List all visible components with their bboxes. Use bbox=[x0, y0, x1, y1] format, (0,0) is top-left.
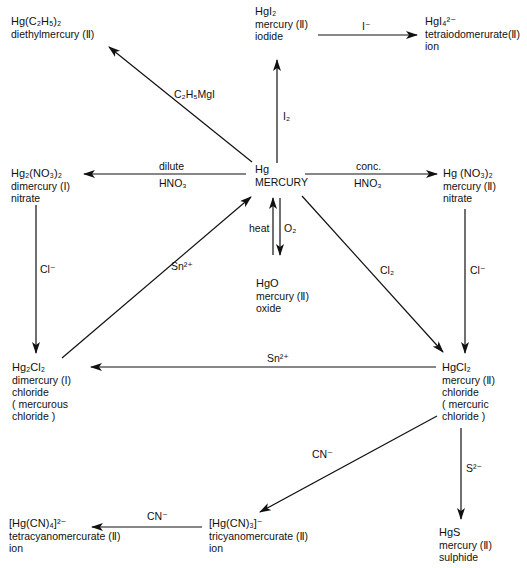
edge-label-cl2: Cl₂ bbox=[380, 264, 394, 276]
edge-label-chloride-left: Cl⁻ bbox=[40, 263, 55, 275]
node-mercury: Hg MERCURY bbox=[255, 163, 308, 188]
node-name-line: chloride ) bbox=[12, 410, 71, 422]
mercury-reaction-diagram: Hg MERCURY HgI₂ mercury (Ⅱ) iodide HgI₄²… bbox=[0, 0, 527, 568]
node-formula: HgI₂ bbox=[255, 5, 308, 18]
edge-label-grignard: C₂H₅MgI bbox=[174, 88, 215, 100]
arrow-hg2cl2-to-hg bbox=[62, 197, 251, 358]
edge-label-dilute: dilute bbox=[159, 160, 184, 172]
node-formula: Hg₂(NO₃)₂ bbox=[11, 167, 70, 180]
arrow-hg-to-diethylmercury bbox=[109, 47, 252, 162]
node-tetraiodomercurate-ion: HgI₄²⁻ tetraiodomerurate(Ⅱ) ion bbox=[425, 15, 520, 52]
node-name-line: chloride bbox=[12, 386, 71, 398]
node-tetracyanomercurate-ion: [Hg(CN)₄]²⁻ tetracyanomercurate (Ⅱ) ion bbox=[9, 517, 120, 554]
node-formula: Hg bbox=[255, 163, 308, 176]
node-name-line: tetraiodomerurate(Ⅱ) bbox=[425, 28, 520, 40]
node-mercury-ii-chloride: HgCl₂ mercury (Ⅱ) chloride ( mercuric ch… bbox=[442, 361, 495, 422]
node-name-line: ion bbox=[209, 542, 308, 554]
edge-label-heat: heat bbox=[249, 222, 269, 234]
edge-label-o2: O₂ bbox=[284, 222, 296, 234]
node-formula: [Hg(CN)₄]²⁻ bbox=[9, 517, 120, 530]
edge-label-chloride-right: Cl⁻ bbox=[470, 264, 485, 276]
node-diethylmercury: Hg(C₂H₅)₂ diethylmercury (Ⅱ) bbox=[11, 15, 94, 40]
node-dimercury-i-nitrate: Hg₂(NO₃)₂ dimercury (Ⅰ) nitrate bbox=[11, 167, 70, 204]
edge-label-hno3-dilute: HNO₃ bbox=[159, 177, 187, 189]
node-formula: [Hg(CN)₃]⁻ bbox=[209, 517, 308, 530]
node-name-line: chloride bbox=[442, 386, 495, 398]
edge-label-iodide-ion: I⁻ bbox=[362, 20, 370, 32]
node-formula: Hg(C₂H₅)₂ bbox=[11, 15, 94, 28]
edge-label-cyanide-diagonal: CN⁻ bbox=[312, 448, 333, 460]
node-name-line: mercury (Ⅱ) bbox=[439, 539, 492, 551]
node-dimercury-i-chloride: Hg₂Cl₂ dimercury (Ⅰ) chloride ( mercurou… bbox=[12, 361, 71, 422]
node-tricyanomercurate-ion: [Hg(CN)₃]⁻ tricyanomercurate (Ⅱ) ion bbox=[209, 517, 308, 554]
node-mercury-ii-sulphide: HgS mercury (Ⅱ) sulphide bbox=[439, 526, 492, 563]
node-formula: HgO bbox=[256, 277, 309, 290]
node-formula: Hg₂Cl₂ bbox=[12, 361, 71, 374]
node-name-line: ion bbox=[425, 40, 520, 52]
node-name-line: nitrate bbox=[443, 192, 496, 204]
node-name-line: mercury (Ⅱ) bbox=[443, 180, 496, 192]
node-formula: HgCl₂ bbox=[442, 361, 495, 374]
node-name-line: dimercury (Ⅰ) bbox=[12, 374, 71, 386]
node-name: MERCURY bbox=[255, 176, 308, 188]
edge-label-i2: I₂ bbox=[283, 110, 290, 122]
arrow-hg-to-hgcl2 bbox=[302, 196, 443, 352]
node-formula: HgS bbox=[439, 526, 492, 539]
node-name-line: iodide bbox=[255, 30, 308, 42]
node-name-line: nitrate bbox=[11, 192, 70, 204]
node-name-line: sulphide bbox=[439, 551, 492, 563]
node-name-line: diethylmercury (Ⅱ) bbox=[11, 28, 94, 40]
node-name-line: mercury (Ⅱ) bbox=[256, 290, 309, 302]
node-name-line: tetracyanomercurate (Ⅱ) bbox=[9, 530, 120, 542]
edge-label-tin-diagonal: Sn²⁺ bbox=[171, 260, 193, 272]
node-mercury-ii-nitrate: Hg (NO₃)₂ mercury (Ⅱ) nitrate bbox=[443, 167, 496, 204]
node-name-line: mercury (Ⅱ) bbox=[442, 374, 495, 386]
node-formula: HgI₄²⁻ bbox=[425, 15, 520, 28]
node-name-line: chloride ) bbox=[442, 410, 495, 422]
node-name-line: mercury (Ⅱ) bbox=[255, 18, 308, 30]
edge-label-cyanide-horizontal: CN⁻ bbox=[147, 510, 168, 522]
node-name-line: ion bbox=[9, 542, 120, 554]
node-mercury-ii-iodide: HgI₂ mercury (Ⅱ) iodide bbox=[255, 5, 308, 42]
node-name-line: dimercury (Ⅰ) bbox=[11, 180, 70, 192]
node-name-line: ( mercuric bbox=[442, 398, 495, 410]
edge-label-tin-horizontal: Sn²⁺ bbox=[267, 352, 289, 364]
arrow-hgcl2-to-hgcn3 bbox=[260, 416, 437, 512]
edge-label-sulphide-ion: S²⁻ bbox=[466, 462, 482, 474]
edge-label-hno3-conc: HNO₃ bbox=[354, 177, 382, 189]
node-name-line: oxide bbox=[256, 302, 309, 314]
edge-label-conc: conc. bbox=[356, 160, 381, 172]
node-name-line: tricyanomercurate (Ⅱ) bbox=[209, 530, 308, 542]
node-formula: Hg (NO₃)₂ bbox=[443, 167, 496, 180]
node-name-line: ( mercurous bbox=[12, 398, 71, 410]
node-mercury-ii-oxide: HgO mercury (Ⅱ) oxide bbox=[256, 277, 309, 314]
